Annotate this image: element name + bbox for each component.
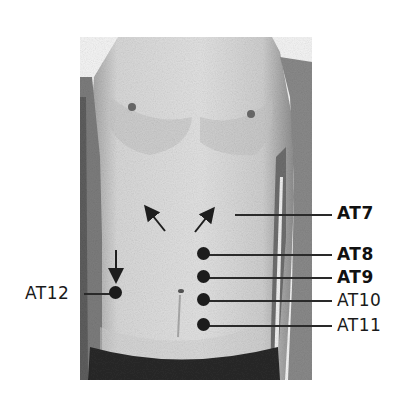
- point-dot-at12: [109, 286, 122, 299]
- point-label-at9: AT9: [337, 269, 374, 286]
- leader-line-at8: [206, 254, 332, 256]
- point-dot-at8: [197, 247, 210, 260]
- leader-line-at9: [206, 277, 332, 279]
- leader-line-at7: [235, 214, 332, 216]
- point-dot-at10: [197, 293, 210, 306]
- point-label-at11: AT11: [337, 317, 381, 334]
- point-label-at8: AT8: [337, 246, 374, 263]
- point-label-at10: AT10: [337, 292, 381, 309]
- annotations-layer: [0, 0, 415, 395]
- point-dot-at11: [197, 318, 210, 331]
- leader-line-at11: [206, 325, 332, 327]
- point-label-at7: AT7: [337, 205, 374, 222]
- acupressure-figure: AT7 AT8 AT9 AT10 AT11 AT12: [0, 0, 415, 395]
- arrow-up-left-icon: [149, 211, 165, 231]
- leader-line-at10: [206, 300, 332, 302]
- point-dot-at9: [197, 270, 210, 283]
- point-label-at12: AT12: [25, 285, 69, 302]
- arrow-up-right-icon: [195, 213, 210, 232]
- leader-line-at12: [84, 293, 112, 295]
